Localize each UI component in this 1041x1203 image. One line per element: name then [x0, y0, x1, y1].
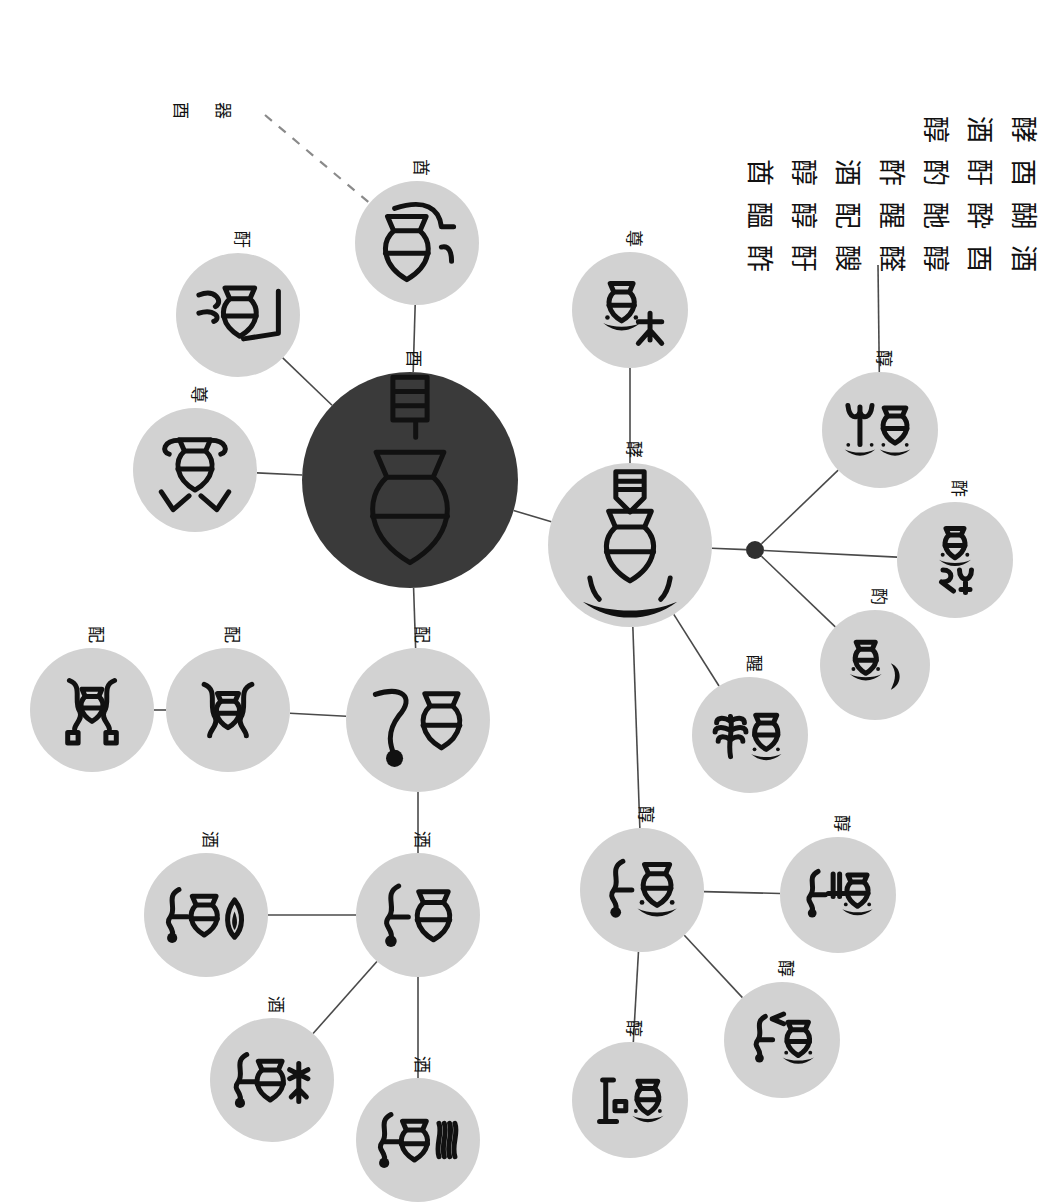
node-label-n_mid_r: 酢: [949, 480, 968, 497]
figure-canvas: 酉酋酑尊配配配酒酒酒酒尊酵醇酢酌醒醇醇醇醇酉器醇酒酵酋醇酒酢酌酑酉醞醇配醒酏酔醐…: [0, 0, 1041, 1203]
node-label-n_left: 尊: [189, 386, 208, 403]
node-label-n_pei_b: 配: [222, 626, 241, 643]
corpus-char-r1-c6: 酉: [1008, 159, 1038, 186]
corpus-char-r1-c4: 酌: [920, 159, 950, 186]
node-label-n_tree: 醒: [744, 655, 763, 672]
node-label-n_sh_main: 醇: [636, 806, 655, 823]
corpus-char-r2-c6: 醐: [1008, 202, 1038, 229]
node-label-n_jiu: 酒: [412, 831, 431, 848]
corpus-char-r3-c3: 醛: [876, 245, 906, 272]
node-label-n_jiu_l: 酒: [200, 831, 219, 848]
node-label-n_low_r: 酌: [869, 588, 888, 605]
node-label-n_pei_c: 配: [86, 626, 105, 643]
corpus-char-r2-c2: 配: [832, 202, 862, 229]
corpus-char-r3-c1: 酑: [788, 245, 818, 272]
node-label-n_up_r: 醇: [874, 350, 893, 367]
corpus-char-r0-c0: 醇: [920, 116, 950, 143]
corpus-char-r2-c4: 酏: [920, 202, 950, 229]
corpus-char-r3-c2: 醙: [832, 245, 862, 272]
annotation-char-0: 酉: [171, 102, 190, 119]
corpus-char-r3-c0: 酢: [744, 245, 774, 272]
corpus-char-r3-c6: 酒: [1008, 245, 1038, 272]
node-label-n_sh_r: 醇: [832, 815, 851, 832]
node-label-n_jiu_lb: 酒: [266, 996, 285, 1013]
annotation-char-1: 器: [213, 102, 232, 119]
node-label-n_upleft: 酑: [232, 231, 251, 248]
corpus-char-r2-c1: 醇: [788, 202, 818, 229]
node-label-root: 酉: [404, 350, 423, 367]
corpus-char-r3-c5: 酉: [964, 245, 994, 272]
corpus-char-r2-c5: 酔: [964, 202, 994, 229]
corpus-char-r2-c3: 醒: [876, 202, 906, 229]
text-layer: 酉酋酑尊配配配酒酒酒酒尊酵醇酢酌醒醇醇醇醇酉器醇酒酵酋醇酒酢酌酑酉醞醇配醒酏酔醐…: [0, 0, 1041, 1203]
corpus-char-r3-c4: 醇: [920, 245, 950, 272]
node-label-n_sh_b: 醇: [624, 1020, 643, 1037]
corpus-char-r1-c3: 酢: [876, 159, 906, 186]
corpus-char-r1-c5: 酑: [964, 159, 994, 186]
node-label-n_hub: 酵: [624, 441, 643, 458]
corpus-char-r2-c0: 醞: [744, 202, 774, 229]
node-label-n_jiu_bb: 酒: [412, 1056, 431, 1073]
node-label-n_top: 酋: [411, 159, 430, 176]
corpus-char-r1-c1: 醇: [788, 159, 818, 186]
node-label-n_zun_r: 尊: [624, 230, 643, 247]
corpus-char-r0-c2: 酵: [1008, 116, 1038, 143]
corpus-char-r1-c2: 酒: [832, 159, 862, 186]
node-label-n_below: 配: [412, 626, 431, 643]
node-label-n_sh_br: 醇: [776, 960, 795, 977]
corpus-char-r1-c0: 酋: [744, 159, 774, 186]
corpus-char-r0-c1: 酒: [964, 116, 994, 143]
